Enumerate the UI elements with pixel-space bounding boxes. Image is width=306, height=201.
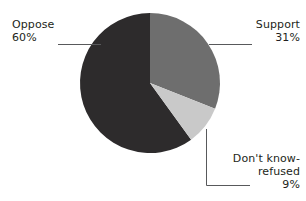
pie-label-oppose: Oppose 60%	[12, 18, 54, 44]
pie-label-dont-know-value: 9%	[233, 178, 300, 191]
pie-label-oppose-name: Oppose	[12, 18, 54, 31]
pie-label-oppose-value: 60%	[12, 31, 54, 44]
pie-chart: Oppose 60% Support 31% Don't know- refus…	[0, 0, 306, 201]
pie-label-support-name: Support	[256, 18, 300, 31]
pie-label-dont-know-name-line2: refused	[233, 165, 300, 178]
pie-label-support: Support 31%	[256, 18, 300, 44]
pie-label-support-value: 31%	[256, 31, 300, 44]
pie-label-dont-know-name: Don't know-	[233, 152, 300, 165]
pie-label-dont-know: Don't know- refused 9%	[233, 152, 300, 191]
